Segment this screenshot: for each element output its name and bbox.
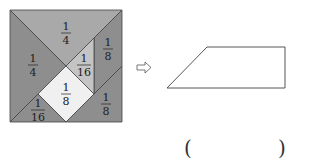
- svg-text:16: 16: [77, 66, 91, 79]
- svg-text:4: 4: [63, 34, 70, 47]
- answer-open-paren: (: [184, 136, 192, 160]
- trapezoid-shape: [167, 47, 285, 88]
- svg-text:16: 16: [31, 111, 45, 124]
- svg-text:1: 1: [105, 36, 112, 49]
- svg-text:1: 1: [63, 81, 70, 94]
- svg-text:1: 1: [63, 20, 70, 33]
- answer-blank[interactable]: [196, 138, 276, 162]
- svg-text:1: 1: [35, 97, 42, 110]
- svg-text:4: 4: [30, 66, 37, 79]
- svg-text:1: 1: [81, 52, 88, 65]
- svg-text:8: 8: [105, 50, 112, 63]
- svg-text:1: 1: [103, 91, 110, 104]
- answer-close-paren: ): [278, 136, 286, 160]
- svg-text:1: 1: [30, 52, 37, 65]
- hollow-right-arrow-icon: [137, 62, 151, 73]
- svg-text:8: 8: [63, 95, 70, 108]
- svg-text:8: 8: [103, 105, 110, 118]
